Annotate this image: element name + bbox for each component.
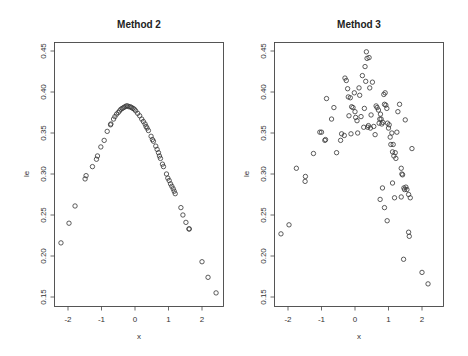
- data-point: [410, 146, 414, 150]
- plot-method-2: Method 2 -2-1012 0.150.200.250.300.350.4…: [22, 19, 224, 341]
- plot-method-3: Method 3 -2-1012 0.150.200.250.300.350.4…: [242, 19, 444, 341]
- data-point: [179, 205, 183, 209]
- data-point: [420, 270, 424, 274]
- data-point: [399, 195, 403, 199]
- x-tick-label: 2: [420, 315, 425, 324]
- data-point: [360, 73, 364, 77]
- data-point: [73, 204, 77, 208]
- data-point: [338, 138, 342, 142]
- y-tick-label: 0.45: [259, 43, 268, 59]
- data-point: [347, 114, 351, 118]
- data-point: [390, 131, 394, 135]
- x-tick-label: -2: [64, 315, 72, 324]
- x-axis: -2-1012: [284, 307, 424, 324]
- data-points: [59, 104, 219, 295]
- data-point: [390, 181, 394, 185]
- data-point: [200, 260, 204, 264]
- data-point: [349, 132, 353, 136]
- x-axis-label: x: [137, 332, 141, 341]
- data-point: [287, 223, 291, 227]
- data-point: [303, 174, 307, 178]
- data-point: [368, 86, 372, 90]
- data-point: [426, 282, 430, 286]
- data-point: [214, 291, 218, 295]
- data-point: [206, 275, 210, 279]
- data-point: [332, 105, 336, 109]
- data-point: [357, 93, 361, 97]
- data-point: [396, 109, 400, 113]
- data-point: [59, 241, 63, 245]
- data-point: [324, 96, 328, 100]
- data-point: [373, 132, 377, 136]
- x-axis: -2-1012: [64, 307, 204, 324]
- data-point: [90, 164, 94, 168]
- data-point: [345, 87, 349, 91]
- data-point: [369, 113, 373, 117]
- data-point: [351, 105, 355, 109]
- data-point: [380, 186, 384, 190]
- x-tick-label: 1: [166, 315, 171, 324]
- y-tick-label: 0.30: [259, 166, 268, 182]
- x-axis-label: x: [357, 332, 361, 341]
- y-tick-label: 0.25: [259, 207, 268, 223]
- y-tick-label: 0.20: [259, 248, 268, 264]
- data-point: [385, 219, 389, 223]
- data-point: [352, 91, 356, 95]
- figure: Method 2 -2-1012 0.150.200.250.300.350.4…: [0, 0, 468, 356]
- x-tick-label: 0: [133, 315, 138, 324]
- data-point: [303, 179, 307, 183]
- data-point: [399, 166, 403, 170]
- data-point: [378, 112, 382, 116]
- data-point: [329, 117, 333, 121]
- data-point: [407, 234, 411, 238]
- plot-frame: [55, 43, 224, 307]
- y-tick-label: 0.30: [39, 166, 48, 182]
- data-point: [357, 86, 361, 90]
- data-point: [406, 230, 410, 234]
- y-axis-label: le: [22, 170, 31, 177]
- data-point: [311, 151, 315, 155]
- data-point: [403, 118, 407, 122]
- x-tick-label: 0: [353, 315, 358, 324]
- data-point: [181, 213, 185, 217]
- data-point: [184, 220, 188, 224]
- data-point: [334, 150, 338, 154]
- y-tick-label: 0.15: [39, 289, 48, 305]
- x-tick-label: -1: [98, 315, 106, 324]
- data-point: [355, 131, 359, 135]
- data-point: [67, 221, 71, 225]
- y-tick-label: 0.25: [39, 207, 48, 223]
- data-point: [353, 109, 357, 113]
- data-point: [99, 145, 103, 149]
- y-tick-label: 0.40: [39, 84, 48, 100]
- y-tick-label: 0.20: [39, 248, 48, 264]
- data-point: [359, 114, 363, 118]
- x-tick-label: 2: [200, 315, 205, 324]
- data-point: [364, 50, 368, 54]
- data-point: [392, 196, 396, 200]
- y-tick-label: 0.35: [259, 125, 268, 141]
- data-point: [397, 102, 401, 106]
- y-tick-label: 0.45: [39, 43, 48, 59]
- data-point: [279, 232, 283, 236]
- data-points: [279, 50, 430, 286]
- plot-title: Method 3: [337, 19, 381, 30]
- data-point: [105, 129, 109, 133]
- data-point: [401, 257, 405, 261]
- data-point: [382, 205, 386, 209]
- data-point: [395, 130, 399, 134]
- data-point: [362, 106, 366, 110]
- y-axis-label: le: [242, 170, 251, 177]
- y-tick-label: 0.35: [39, 125, 48, 141]
- y-tick-label: 0.40: [259, 84, 268, 100]
- x-tick-label: 1: [386, 315, 391, 324]
- x-tick-label: -2: [284, 315, 292, 324]
- data-point: [378, 197, 382, 201]
- x-tick-label: -1: [318, 315, 326, 324]
- y-tick-label: 0.15: [259, 289, 268, 305]
- data-point: [364, 79, 368, 83]
- y-axis: 0.150.200.250.300.350.400.45: [39, 43, 55, 305]
- plot-title: Method 2: [117, 19, 161, 30]
- data-point: [294, 166, 298, 170]
- plot-frame: [275, 43, 444, 307]
